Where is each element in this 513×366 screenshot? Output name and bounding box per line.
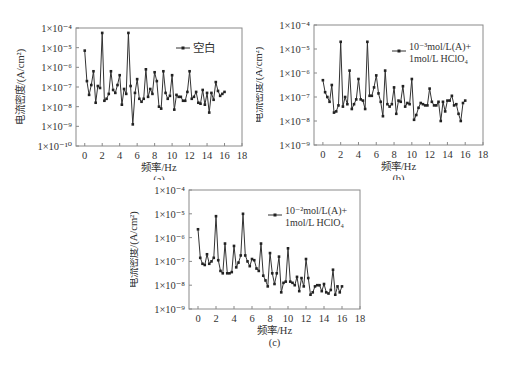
y-axis-label: 电流密度/(A/cm²)	[256, 46, 265, 123]
data-marker	[255, 267, 258, 270]
data-marker	[439, 120, 442, 123]
x-tick-label: 6	[249, 313, 254, 324]
x-tick-label: 16	[337, 313, 348, 324]
y-tick-label: 1×10⁻⁶	[279, 68, 310, 79]
y-axis-label: 电流密度/(A/cm²)	[130, 211, 140, 288]
data-marker	[266, 285, 269, 288]
y-tick-label: 1×10⁻⁵	[154, 209, 185, 220]
data-marker	[448, 99, 451, 102]
data-marker	[237, 261, 240, 264]
data-marker	[446, 99, 449, 102]
data-marker	[282, 282, 285, 285]
y-axis-label: 电流密度/(A/cm²)	[14, 48, 27, 125]
legend: 空白	[176, 41, 215, 54]
data-marker	[239, 254, 242, 257]
data-marker	[199, 102, 202, 105]
data-marker	[221, 272, 224, 275]
y-tick-label: 1×10⁻⁸	[41, 102, 72, 113]
data-marker	[320, 290, 323, 293]
data-marker	[335, 110, 338, 113]
y-tick-label: 1×10⁻⁶	[154, 233, 185, 244]
data-marker	[457, 113, 460, 116]
data-marker	[442, 101, 445, 104]
data-marker	[230, 271, 233, 274]
x-tick-label: 8	[267, 313, 272, 324]
data-marker	[212, 257, 215, 260]
data-marker	[118, 74, 121, 77]
data-marker	[300, 277, 303, 280]
data-marker	[357, 78, 360, 81]
data-marker	[338, 291, 341, 294]
data-marker	[162, 70, 165, 73]
legend: 10⁻²mol/L(A)+1mol/L HClO₄	[268, 205, 348, 228]
data-marker	[110, 70, 113, 73]
y-tick-label: 1×10⁻⁸	[279, 116, 310, 127]
data-marker	[160, 107, 163, 110]
x-tick-label: 4	[356, 149, 362, 160]
data-marker	[251, 258, 254, 261]
data-marker	[341, 285, 344, 288]
data-marker	[166, 98, 169, 101]
x-tick-label: 10	[283, 313, 294, 324]
data-marker	[121, 103, 124, 106]
data-marker	[371, 95, 374, 98]
data-marker	[271, 272, 274, 275]
data-marker	[327, 292, 330, 295]
data-marker	[140, 100, 143, 103]
y-tick-label: 1×10⁻⁹	[41, 121, 72, 132]
data-marker	[355, 98, 358, 101]
data-marker	[334, 293, 337, 296]
y-tick-label: 1×10⁻⁴	[279, 20, 310, 31]
data-marker	[311, 291, 314, 294]
x-tick-label: 4	[231, 313, 237, 324]
data-marker	[125, 93, 128, 96]
data-marker	[149, 88, 152, 91]
data-marker	[326, 96, 329, 99]
data-marker	[342, 105, 345, 108]
x-tick-label: 14	[442, 149, 453, 160]
data-marker	[273, 283, 276, 286]
data-marker	[348, 69, 351, 72]
x-tick-label: 2	[100, 150, 105, 161]
data-marker	[129, 85, 132, 88]
data-marker	[291, 282, 294, 285]
data-marker	[428, 87, 431, 90]
data-marker	[435, 104, 438, 107]
data-marker	[413, 119, 416, 122]
x-tick-label: 6	[135, 150, 140, 161]
data-marker	[214, 81, 217, 84]
x-tick-label: 18	[478, 149, 489, 160]
data-marker	[242, 213, 245, 216]
x-tick-label: 16	[460, 149, 471, 160]
y-tick-label: 1×10⁻⁷	[41, 82, 72, 93]
data-marker	[451, 95, 454, 98]
data-marker	[386, 103, 389, 106]
data-marker	[359, 98, 362, 101]
data-marker	[264, 279, 267, 282]
y-tick-label: 1×10⁻⁹	[279, 140, 310, 151]
y-tick-label: 1×10⁻⁴	[41, 23, 72, 34]
data-marker	[424, 104, 427, 107]
x-axis-label: 频率/Hz	[381, 160, 417, 172]
data-marker	[151, 93, 154, 96]
data-marker	[180, 96, 183, 99]
y-tick-label: 1×10⁻⁷	[154, 256, 185, 267]
data-marker	[244, 254, 247, 257]
x-tick-label: 0	[320, 149, 325, 160]
data-marker	[210, 92, 213, 95]
y-tick-label: 1×10⁻⁸	[154, 280, 185, 291]
x-tick-label: 8	[391, 149, 396, 160]
data-marker	[309, 293, 312, 296]
x-tick-label: 10	[407, 149, 418, 160]
data-marker	[201, 89, 204, 92]
chart-c-1e-2-mol: 1×10⁻⁹1×10⁻⁸1×10⁻⁷1×10⁻⁶1×10⁻⁵1×10⁻⁴0246…	[130, 175, 390, 366]
data-marker	[199, 257, 202, 260]
figure: 1×10⁻¹⁰1×10⁻⁹1×10⁻⁸1×10⁻⁷1×10⁻⁶1×10⁻⁵1×1…	[0, 0, 513, 366]
data-marker	[373, 86, 376, 89]
data-marker	[296, 276, 299, 279]
data-marker	[228, 272, 231, 275]
data-marker	[332, 268, 335, 271]
data-marker	[444, 110, 447, 113]
figure-caption: (b)	[392, 173, 405, 180]
data-marker	[298, 290, 301, 293]
